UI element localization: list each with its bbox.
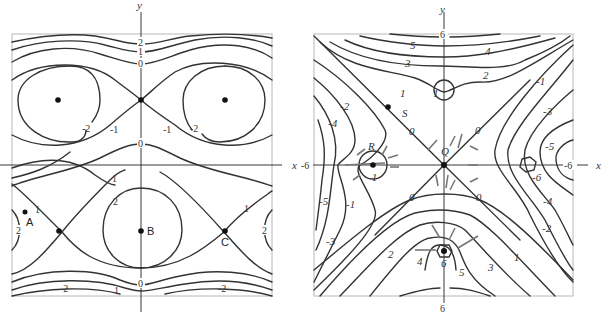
svg-text:3: 3	[487, 261, 494, 273]
svg-text:0: 0	[138, 138, 143, 149]
svg-text:1: 1	[114, 285, 119, 296]
point-a-label: A	[26, 216, 34, 228]
svg-text:0: 0	[138, 278, 143, 289]
right-x-tick-left: -6	[301, 160, 309, 171]
point-b-label: B	[147, 225, 154, 237]
svg-text:2: 2	[262, 225, 267, 236]
svg-text:1: 1	[138, 46, 143, 57]
svg-text:2: 2	[16, 225, 21, 236]
svg-text:6: 6	[441, 257, 447, 269]
svg-text:-2: -2	[542, 222, 552, 234]
point-s-label: S	[402, 107, 408, 119]
left-center-point-left	[55, 97, 61, 103]
svg-text:-2: -2	[340, 100, 350, 112]
right-y-tick-top: 6	[440, 29, 445, 40]
left-saddle-point-left	[56, 228, 62, 234]
svg-text:-1: -1	[368, 171, 377, 183]
svg-text:-2: -2	[218, 283, 226, 294]
point-c-label: C	[221, 236, 229, 248]
svg-text:-1: -1	[110, 124, 118, 135]
svg-text:2: 2	[388, 248, 394, 260]
svg-text:1: 1	[514, 251, 520, 263]
svg-text:-2: -2	[82, 123, 90, 134]
point-c-marker	[222, 228, 228, 234]
svg-text:0: 0	[475, 124, 481, 136]
svg-text:2: 2	[483, 69, 489, 81]
svg-text:-1: -1	[163, 124, 171, 135]
svg-text:4: 4	[485, 45, 491, 57]
svg-text:-2: -2	[60, 283, 68, 294]
svg-text:-2: -2	[190, 123, 198, 134]
left-contour-plot: y x	[0, 0, 297, 312]
left-saddle-point-top	[138, 97, 144, 103]
svg-text:5: 5	[410, 39, 416, 51]
svg-text:-3: -3	[543, 105, 553, 117]
svg-text:-4: -4	[328, 117, 338, 129]
right-x-tick-right: -6	[564, 160, 572, 171]
svg-text:0: 0	[476, 191, 482, 203]
svg-text:1: 1	[400, 87, 406, 99]
svg-text:-1: -1	[346, 198, 355, 210]
svg-text:-5: -5	[545, 140, 555, 152]
left-y-axis-label: y	[136, 0, 142, 11]
svg-text:-6: -6	[532, 171, 542, 183]
svg-text:0: 0	[409, 191, 415, 203]
svg-text:5: 5	[459, 266, 465, 278]
svg-text:-3: -3	[326, 235, 336, 247]
right-y-axis-label: y	[439, 3, 445, 15]
svg-text:1: 1	[35, 204, 40, 215]
point-b-marker	[138, 228, 144, 234]
svg-text:1: 1	[112, 173, 117, 184]
svg-text:2: 2	[113, 196, 118, 207]
diagram-canvas: y x	[0, 0, 606, 323]
svg-text:-1: -1	[536, 75, 545, 87]
point-q-label: Q	[441, 145, 449, 157]
point-s-marker	[385, 104, 391, 110]
svg-text:-5: -5	[319, 195, 329, 207]
svg-text:1: 1	[433, 87, 439, 99]
right-contour-plot: y x	[300, 3, 601, 314]
point-r-marker	[370, 162, 376, 168]
right-x-axis-label: x	[595, 159, 601, 171]
bottom-fixed-point-marker	[441, 248, 447, 254]
svg-text:0: 0	[409, 125, 415, 137]
svg-text:4: 4	[417, 255, 423, 267]
left-contour-labels: 2 1 0 -2 -1 -1 -2 0 1 2 1 1 2 2 -2 1 0 -…	[15, 37, 269, 296]
left-center-point-right	[222, 97, 228, 103]
svg-text:0: 0	[138, 58, 143, 69]
point-r-label: R	[367, 140, 375, 152]
left-x-axis-label: x	[291, 159, 297, 171]
right-y-tick-bottom: 6	[440, 303, 445, 314]
point-q-marker	[441, 162, 447, 168]
svg-text:-4: -4	[543, 195, 553, 207]
svg-text:1: 1	[244, 203, 249, 214]
point-a-marker	[23, 210, 28, 215]
svg-text:3: 3	[404, 57, 411, 69]
